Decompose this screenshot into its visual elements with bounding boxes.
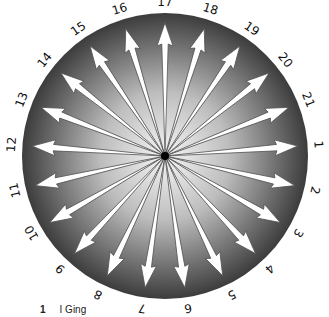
caption-text: I Ging	[60, 304, 87, 315]
label-1: 1	[311, 140, 326, 149]
label-2: 2	[307, 185, 322, 196]
caption-number: 1	[40, 304, 46, 315]
label-13: 13	[12, 90, 31, 109]
figure-caption: 1I Ging	[40, 304, 86, 315]
label-12: 12	[4, 136, 19, 152]
label-20: 20	[275, 50, 295, 71]
label-16: 16	[110, 0, 129, 18]
label-6: 6	[183, 301, 193, 316]
center-hub	[161, 152, 169, 160]
label-8: 8	[92, 287, 105, 303]
label-15: 15	[68, 19, 89, 39]
label-19: 19	[241, 19, 262, 39]
label-7: 7	[137, 301, 147, 316]
label-5: 5	[225, 287, 238, 303]
label-17: 17	[157, 0, 172, 9]
label-14: 14	[34, 50, 54, 71]
label-4: 4	[262, 261, 277, 276]
label-18: 18	[201, 0, 220, 18]
label-9: 9	[53, 261, 68, 276]
label-10: 10	[22, 223, 42, 243]
label-11: 11	[6, 181, 23, 199]
label-21: 21	[299, 90, 318, 109]
label-3: 3	[290, 226, 306, 240]
iching-wheel-diagram: 123456789101112131415161718192021	[0, 0, 329, 317]
